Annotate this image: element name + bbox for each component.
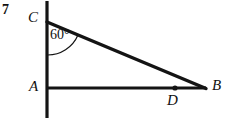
problem-number: 7 bbox=[2, 3, 9, 17]
point-label-b: B bbox=[212, 78, 221, 93]
point-marker-D bbox=[172, 85, 177, 90]
point-label-a: A bbox=[29, 79, 38, 94]
segment-CB bbox=[47, 22, 206, 89]
geometry-figure: 7 C A B D 60° bbox=[0, 0, 233, 118]
point-label-c: C bbox=[28, 10, 38, 25]
angle-label-60: 60° bbox=[50, 28, 70, 42]
point-label-d: D bbox=[167, 93, 178, 108]
